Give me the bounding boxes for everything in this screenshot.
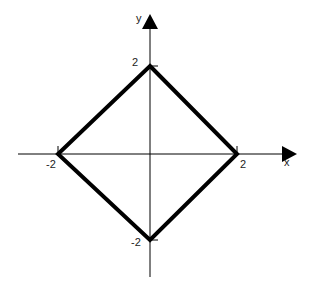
tick-label-left: -2: [46, 158, 56, 170]
diamond-shape: [58, 66, 237, 240]
tick-label-top: 2: [132, 56, 138, 68]
diagram-svg: y x 2 2 -2 -2: [0, 0, 311, 288]
y-axis-label: y: [136, 12, 142, 24]
x-axis-label: x: [284, 156, 290, 168]
diagram-canvas: y x 2 2 -2 -2: [0, 0, 311, 288]
y-axis-arrow-icon: [142, 14, 158, 29]
tick-label-bottom: -2: [131, 236, 141, 248]
tick-label-right: 2: [240, 158, 246, 170]
